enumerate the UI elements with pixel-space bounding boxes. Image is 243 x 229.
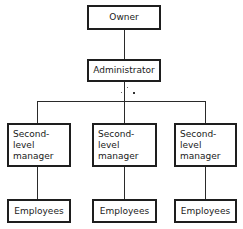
connector-manager-employees-left [37, 166, 38, 199]
connector-owner-admin [124, 29, 125, 59]
connector-manager-employees-middle [124, 166, 125, 199]
scan-artifact [127, 87, 128, 88]
node-administrator: Administrator [87, 59, 161, 82]
node-owner: Owner [87, 5, 161, 30]
node-owner-label: Owner [109, 12, 138, 23]
node-administrator-label: Administrator [93, 65, 154, 76]
node-employees-middle-label: Employees [100, 206, 149, 217]
node-manager-left: Second-level manager [7, 123, 71, 167]
node-manager-middle: Second-level manager [92, 123, 157, 167]
scan-artifact [133, 92, 135, 94]
node-manager-right-label: Second-level manager [180, 129, 233, 162]
node-employees-right: Employees [174, 199, 237, 223]
connector-bus-manager-middle [124, 101, 125, 123]
node-employees-right-label: Employees [181, 206, 230, 217]
connector-horizontal-bus [37, 101, 206, 102]
connector-bus-manager-left [37, 101, 38, 123]
node-manager-right: Second-level manager [174, 123, 237, 167]
node-manager-middle-label: Second-level manager [98, 129, 153, 162]
connector-bus-manager-right [205, 101, 206, 123]
node-employees-left: Employees [7, 199, 71, 223]
connector-manager-employees-right [205, 166, 206, 199]
connector-admin-bus [124, 81, 125, 101]
node-employees-left-label: Employees [14, 206, 63, 217]
node-employees-middle: Employees [92, 199, 157, 223]
node-manager-left-label: Second-level manager [13, 129, 67, 162]
scan-artifact [121, 92, 122, 93]
